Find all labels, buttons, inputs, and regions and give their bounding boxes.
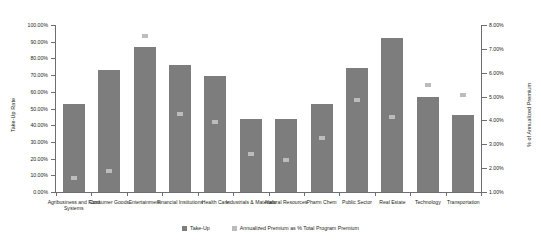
y-axis-left-tick-label: 10.00% xyxy=(8,172,48,178)
y-axis-left-tick-label: 30.00% xyxy=(8,139,48,145)
y-axis-right-tick xyxy=(482,25,487,26)
bar xyxy=(169,65,191,192)
y-axis-left-tick xyxy=(51,92,56,93)
y-axis-right-tick-label: 2.00% xyxy=(489,165,529,171)
premium-marker xyxy=(177,112,183,116)
y-axis-left-tick xyxy=(51,109,56,110)
y-axis-left-tick-label: 80.00% xyxy=(8,55,48,61)
bar xyxy=(275,119,297,192)
x-axis-tick xyxy=(269,192,270,196)
x-axis-tick xyxy=(410,192,411,196)
y-axis-left-tick-label: 90.00% xyxy=(8,39,48,45)
y-axis-right-tick xyxy=(482,192,487,193)
y-axis-right-tick xyxy=(482,49,487,50)
y-axis-right-tick xyxy=(482,168,487,169)
y-axis-left-tick xyxy=(51,159,56,160)
y-axis-left-tick-label: 70.00% xyxy=(8,72,48,78)
premium-marker xyxy=(142,34,148,38)
y-axis-left-tick xyxy=(51,125,56,126)
premium-marker xyxy=(425,83,431,87)
y-axis-right-tick xyxy=(482,144,487,145)
y-axis-right-tick-label: 4.00% xyxy=(489,117,529,123)
x-axis-tick xyxy=(339,192,340,196)
y-axis-left-tick xyxy=(51,142,56,143)
y-axis-left-tick-label: 0.00% xyxy=(8,189,48,195)
y-axis-right-tick-label: 8.00% xyxy=(489,22,529,28)
chart-container: Take-Up Rate % of Annualized Premium 0.0… xyxy=(0,0,541,245)
premium-marker xyxy=(248,152,254,156)
x-axis-tick xyxy=(375,192,376,196)
legend-label: Take-Up xyxy=(190,225,210,231)
plot-area: 0.00%10.00%20.00%30.00%40.00%50.00%60.00… xyxy=(56,25,481,192)
y-axis-right-tick-label: 3.00% xyxy=(489,141,529,147)
y-axis-left-tick-label: 100.00% xyxy=(8,22,48,28)
bar xyxy=(98,70,120,192)
legend-swatch-icon xyxy=(182,226,187,231)
bar xyxy=(452,115,474,192)
bar xyxy=(204,76,226,192)
x-axis-tick xyxy=(481,192,482,196)
y-axis-right-tick-label: 7.00% xyxy=(489,46,529,52)
x-axis-category-label: Transportation xyxy=(431,199,495,205)
y-axis-left-tick-label: 60.00% xyxy=(8,89,48,95)
x-axis-tick xyxy=(56,192,57,196)
premium-marker xyxy=(319,136,325,140)
legend-label: Annualized Premium as % Total Program Pr… xyxy=(240,225,359,231)
y-axis-right-tick xyxy=(482,120,487,121)
premium-marker xyxy=(71,176,77,180)
y-axis-right-tick xyxy=(482,73,487,74)
legend-swatch-icon xyxy=(232,226,237,231)
legend-item-take-up: Take-Up xyxy=(182,225,210,231)
x-axis-tick xyxy=(304,192,305,196)
bar xyxy=(134,47,156,192)
y-axis-right-line xyxy=(481,25,482,192)
premium-marker xyxy=(212,120,218,124)
premium-marker xyxy=(106,169,112,173)
y-axis-left-tick xyxy=(51,25,56,26)
bar xyxy=(417,97,439,192)
bar xyxy=(311,104,333,193)
bar xyxy=(346,68,368,192)
y-axis-right-tick-label: 5.00% xyxy=(489,94,529,100)
y-axis-left-tick-label: 50.00% xyxy=(8,106,48,112)
x-axis-tick xyxy=(127,192,128,196)
y-axis-left-tick xyxy=(51,42,56,43)
y-axis-right-tick xyxy=(482,97,487,98)
y-axis-left-tick xyxy=(51,58,56,59)
y-axis-left-tick xyxy=(51,75,56,76)
y-axis-left-tick-label: 20.00% xyxy=(8,156,48,162)
premium-marker xyxy=(354,98,360,102)
y-axis-right-tick-label: 6.00% xyxy=(489,70,529,76)
premium-marker xyxy=(283,158,289,162)
x-axis-tick xyxy=(198,192,199,196)
premium-marker xyxy=(460,93,466,97)
legend-item-annualized-premium: Annualized Premium as % Total Program Pr… xyxy=(232,225,359,231)
x-axis-tick xyxy=(91,192,92,196)
x-axis-tick xyxy=(446,192,447,196)
y-axis-left-tick-label: 40.00% xyxy=(8,122,48,128)
y-axis-right-tick-label: 1.00% xyxy=(489,189,529,195)
y-axis-left-tick xyxy=(51,175,56,176)
x-axis-tick xyxy=(233,192,234,196)
x-axis-tick xyxy=(162,192,163,196)
premium-marker xyxy=(389,115,395,119)
chart-legend: Take-Up Annualized Premium as % Total Pr… xyxy=(0,225,541,231)
